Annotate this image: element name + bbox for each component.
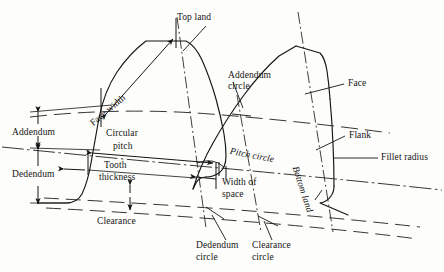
right-tooth-left-flank — [193, 46, 296, 189]
label-addendum: Addendum — [12, 127, 55, 139]
right-tooth-fillet-bottom-land — [320, 186, 348, 215]
label-dedendum-circle-line1: Dedendum — [196, 240, 238, 252]
label-face: Face — [348, 78, 366, 90]
face-leader — [305, 84, 344, 94]
label-dedendum: Dedendum — [12, 169, 54, 181]
tooth-thickness-dimension — [64, 169, 216, 179]
label-circular-pitch-line1: Circular — [106, 128, 138, 140]
dedendum-circle-leader — [206, 207, 226, 240]
label-fillet-radius: Fillet radius — [381, 152, 428, 164]
label-top-land: Top land — [177, 12, 211, 24]
tooth-thickness-left-arrow — [64, 169, 85, 170]
gear-nomenclature-diagram: Top land Face width Addendum circle Face… — [0, 0, 444, 272]
label-addendum-circle-line1: Addendum — [228, 70, 271, 82]
bottom-land-leader — [315, 190, 322, 200]
label-width-of-space-line1: Width of — [222, 177, 256, 189]
label-addendum-circle-line2: circle — [228, 81, 250, 93]
label-tooth-thickness-line1: Tooth — [104, 160, 127, 172]
label-clearance: Clearance — [97, 216, 136, 228]
label-width-of-space-line2: space — [222, 189, 244, 201]
label-dedendum-circle-line2: circle — [196, 252, 218, 264]
clearance-circle-leader — [258, 216, 278, 240]
flank-leader — [316, 136, 345, 150]
label-flank: Flank — [349, 130, 371, 142]
label-circular-pitch-line2: pitch — [113, 141, 133, 153]
label-tooth-thickness-line2: thickness — [99, 172, 135, 184]
label-clearance-circle-line1: Clearance — [252, 240, 291, 252]
label-clearance-circle-line2: circle — [252, 252, 274, 264]
addendum-circle-line — [30, 111, 390, 133]
gear-geometry-svg — [0, 0, 444, 272]
right-tooth-top-land — [296, 46, 330, 99]
centerline-left-tooth — [177, 17, 206, 228]
